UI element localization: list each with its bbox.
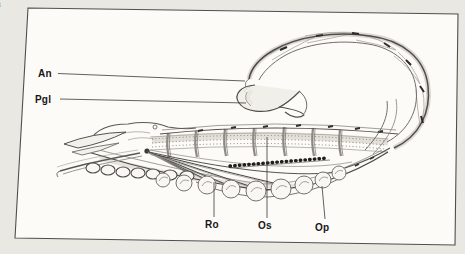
coxa-ring [131, 168, 145, 178]
label-ro: Ro [205, 219, 219, 230]
label-op: Op [315, 222, 329, 233]
scanned-page: n r e l r . [0, 0, 465, 254]
coxa-ring [116, 167, 130, 177]
scallop-coil [198, 176, 216, 194]
scallop-coil [156, 173, 170, 187]
scorpion-diagram: An Pgl Ro Os Op [0, 0, 465, 254]
label-an: An [38, 68, 52, 79]
scallop-coil [246, 181, 266, 201]
coxa-ring [86, 163, 100, 173]
scallop-coil [315, 172, 331, 188]
label-os: Os [258, 220, 272, 231]
scallop-coil [271, 179, 291, 199]
scallop-coil [295, 176, 313, 194]
coxa-ring [101, 165, 115, 175]
scallop-coil [176, 175, 192, 191]
scallop-coil [332, 166, 346, 180]
label-pgl: Pgl [35, 94, 51, 105]
scallop-coil [222, 180, 240, 198]
